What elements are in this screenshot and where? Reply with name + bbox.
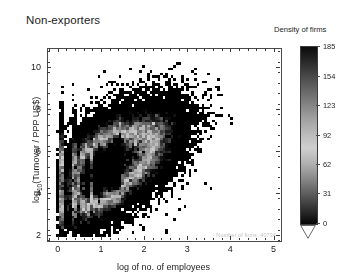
y-tick-minor-right [278, 135, 281, 136]
x-tick-minor [248, 238, 249, 241]
x-tick-label: 1 [88, 244, 114, 254]
y-tick-minor [47, 156, 50, 157]
y-tick-minor [47, 114, 50, 115]
y-tick-major-right [276, 151, 280, 152]
y-tick-minor [47, 72, 50, 73]
x-tick-minor-top [110, 48, 111, 51]
x-tick-minor-top [135, 48, 136, 51]
x-tick-minor-top [66, 48, 67, 51]
colorbar-tick-label: 31 [323, 189, 331, 198]
x-tick-major-top [58, 48, 59, 52]
y-tick-minor-right [278, 209, 281, 210]
y-tick-minor [47, 188, 50, 189]
x-tick-minor [170, 238, 171, 241]
y-tick-major [47, 151, 51, 152]
x-tick-minor [256, 238, 257, 241]
x-tick-minor-top [196, 48, 197, 51]
y-tick-minor-right [278, 114, 281, 115]
y-tick-minor [47, 167, 50, 168]
x-tick-major [101, 236, 102, 240]
y-tick-minor-right [278, 93, 281, 94]
y-tick-major [47, 193, 51, 194]
x-tick-minor [222, 238, 223, 241]
x-tick-minor-top [248, 48, 249, 51]
page-title: Non-exporters [26, 14, 100, 26]
x-tick-minor-top [92, 48, 93, 51]
colorbar-tick-label: 0 [323, 219, 327, 228]
y-tick-minor [47, 51, 50, 52]
colorbar-tick-label: 62 [323, 159, 331, 168]
y-tick-minor-right [278, 198, 281, 199]
y-tick-major-right [276, 193, 280, 194]
y-tick-minor-right [278, 177, 281, 178]
y-tick-minor [47, 83, 50, 84]
plot-area: Number of firms: 40734 [47, 48, 282, 242]
y-tick-minor [47, 146, 50, 147]
y-tick-minor-right [278, 146, 281, 147]
x-tick-minor-top [84, 48, 85, 51]
x-tick-label: 0 [45, 244, 71, 254]
colorbar-tick-label: 185 [323, 42, 335, 51]
x-tick-minor [204, 238, 205, 241]
colorbar-tick [316, 105, 320, 106]
x-tick-major-top [230, 48, 231, 52]
colorbar-title: Density of firms [274, 25, 326, 34]
x-tick-major [230, 236, 231, 240]
colorbar-tick [316, 223, 320, 224]
x-tick-label: 4 [217, 244, 243, 254]
colorbar-tick [316, 46, 320, 47]
x-tick-major [187, 236, 188, 240]
x-tick-major [58, 236, 59, 240]
x-tick-minor-top [75, 48, 76, 51]
x-tick-minor-top [265, 48, 266, 51]
y-tick-major [47, 109, 51, 110]
x-tick-minor [161, 238, 162, 241]
y-tick-minor [47, 93, 50, 94]
x-tick-major [274, 236, 275, 240]
y-tick-minor [47, 230, 50, 231]
x-tick-label: 3 [174, 244, 200, 254]
x-tick-minor [213, 238, 214, 241]
y-tick-minor [47, 62, 50, 63]
y-tick-major-right [276, 109, 280, 110]
x-tick-minor-top [204, 48, 205, 51]
y-tick-minor-right [278, 104, 281, 105]
y-tick-minor-right [278, 188, 281, 189]
density-canvas [48, 49, 281, 241]
colorbar-tick [316, 135, 320, 136]
x-tick-minor-top [222, 48, 223, 51]
x-tick-minor [49, 238, 50, 241]
x-tick-minor-top [239, 48, 240, 51]
x-tick-major [144, 236, 145, 240]
x-tick-minor-top [179, 48, 180, 51]
y-tick-major [47, 235, 51, 236]
y-tick-minor [47, 198, 50, 199]
x-tick-minor [118, 238, 119, 241]
y-axis-label: log10(Turnover / PPP US$) [31, 65, 43, 235]
y-tick-minor-right [278, 156, 281, 157]
x-tick-minor [153, 238, 154, 241]
x-tick-minor [179, 238, 180, 241]
colorbar-tick [316, 193, 320, 194]
y-tick-minor-right [278, 240, 281, 241]
y-tick-minor-right [278, 83, 281, 84]
y-tick-minor [47, 219, 50, 220]
colorbar-tick [316, 76, 320, 77]
x-tick-minor [127, 238, 128, 241]
x-tick-major-top [101, 48, 102, 52]
colorbar-tick-label: 123 [323, 101, 335, 110]
x-tick-minor [84, 238, 85, 241]
y-tick-major-right [276, 235, 280, 236]
x-tick-minor [75, 238, 76, 241]
x-tick-minor-top [153, 48, 154, 51]
x-tick-minor-top [256, 48, 257, 51]
firm-count-annotation: Number of firms: 40734 [216, 232, 276, 238]
x-tick-label: 5 [261, 244, 287, 254]
y-tick-minor-right [278, 62, 281, 63]
y-tick-minor-right [278, 167, 281, 168]
colorbar-tick [316, 164, 320, 165]
x-tick-minor [196, 238, 197, 241]
x-tick-minor [66, 238, 67, 241]
x-tick-major-top [274, 48, 275, 52]
colorbar-underflow-arrow-icon [300, 225, 316, 239]
